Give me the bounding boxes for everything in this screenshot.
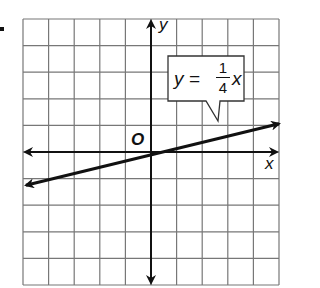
fraction: 1 4	[216, 59, 230, 96]
origin-label: O	[131, 130, 144, 150]
callout-var: x	[232, 68, 242, 90]
x-axis-label: x	[265, 154, 274, 174]
fraction-denominator: 4	[216, 79, 230, 96]
y-axis-label: y	[159, 15, 168, 35]
line-series	[26, 124, 279, 186]
callout-lhs: y =	[174, 68, 200, 90]
fraction-bar	[216, 77, 230, 78]
equation-callout: y = 1 4 x	[168, 56, 244, 101]
fraction-numerator: 1	[216, 59, 230, 76]
